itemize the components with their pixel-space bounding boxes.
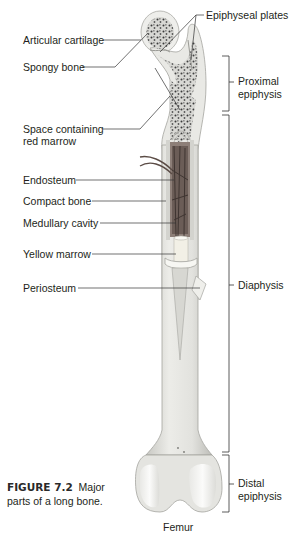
label-space-red-marrow-line1: Space containing [23, 123, 104, 135]
label-periosteum: Periosteum [23, 282, 76, 294]
diagram-title: Femur [163, 521, 193, 533]
label-endosteum: Endosteum [23, 174, 76, 186]
diaphysis-shape [140, 140, 212, 461]
label-proximal-epiphysis-line1: Proximal [238, 75, 279, 87]
label-space-red-marrow-line2: red marrow [23, 135, 76, 147]
caption-line1: Major [79, 481, 105, 493]
label-medullary-cavity: Medullary cavity [23, 217, 98, 229]
caption-line2: parts of a long bone. [7, 494, 105, 508]
label-diaphysis: Diaphysis [238, 279, 284, 291]
label-yellow-marrow: Yellow marrow [23, 248, 91, 260]
label-proximal-epiphysis-line2: epiphysis [238, 88, 282, 100]
figure-caption: FIGURE 7.2 Major parts of a long bone. [7, 480, 105, 508]
label-compact-bone: Compact bone [23, 195, 91, 207]
label-distal-epiphysis-line2: epiphysis [238, 490, 282, 502]
region-brackets [222, 56, 234, 512]
distal-epiphysis-shape [135, 455, 222, 512]
label-articular-cartilage: Articular cartilage [23, 34, 104, 46]
label-epiphyseal-plates: Epiphyseal plates [206, 9, 288, 21]
figure-number: FIGURE 7.2 [7, 481, 73, 493]
label-spongy-bone: Spongy bone [23, 61, 85, 73]
long-bone-diagram: Epiphyseal plates Articular cartilage Sp… [0, 0, 306, 545]
label-distal-epiphysis-line1: Distal [238, 477, 264, 489]
